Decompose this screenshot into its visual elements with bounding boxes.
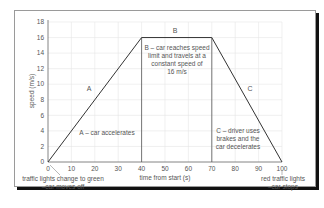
x-tick-label: 10 xyxy=(68,165,76,172)
y-tick-label: 4 xyxy=(40,127,44,134)
y-tick-label: 12 xyxy=(37,65,45,72)
start-pointer xyxy=(50,165,60,175)
segment-b-description-4: 16 m/s xyxy=(167,68,187,75)
x-tick-label: 30 xyxy=(115,165,123,172)
x-tick-label: 90 xyxy=(255,165,263,172)
x-tick-label: 40 xyxy=(138,165,146,172)
x-tick-label: 60 xyxy=(185,165,193,172)
segment-label-b: B xyxy=(173,27,178,34)
x-axis-label: time from start (s) xyxy=(140,174,191,182)
segment-label-c: C xyxy=(247,85,252,92)
y-tick-label: 10 xyxy=(37,80,45,87)
x-tick-label: 20 xyxy=(91,165,99,172)
y-tick-label: 14 xyxy=(37,49,45,56)
end-annotation-2: –car stops xyxy=(268,183,299,191)
segment-c-description-3: car decelerates xyxy=(216,143,261,150)
x-tick-label: 50 xyxy=(161,165,169,172)
start-annotation-1: traffic lights change to green xyxy=(22,175,104,183)
start-annotation-2: –car moves off xyxy=(42,183,85,190)
y-axis-label: speed (m/s) xyxy=(28,74,36,108)
segment-c-description-2: brakes and the xyxy=(216,135,259,142)
end-annotation-1: red traffic lights xyxy=(261,175,306,183)
segment-label-a: A xyxy=(87,85,92,92)
y-tick-label: 0 xyxy=(40,158,44,165)
x-tick-label: 80 xyxy=(232,165,240,172)
segment-b-description-1: B – car reaches speed xyxy=(144,44,209,52)
y-tick-labels: 024681012141618 xyxy=(37,18,45,165)
y-tick-label: 18 xyxy=(37,18,45,25)
segment-a-description: A – car accelerates xyxy=(79,129,135,136)
x-tick-labels: 0102030405060708090100 xyxy=(46,165,288,172)
y-tick-label: 16 xyxy=(37,34,45,41)
y-tick-label: 8 xyxy=(40,96,44,103)
speed-time-graph: 024681012141618 0102030405060708090100 s… xyxy=(0,0,324,208)
segment-c-description-1: C – driver uses xyxy=(216,127,260,134)
y-tick-label: 2 xyxy=(40,143,44,150)
x-tick-label: 0 xyxy=(46,165,50,172)
segment-b-description-3: constant speed of xyxy=(151,60,203,68)
y-tick-label: 6 xyxy=(40,112,44,119)
segment-b-description-2: limit and travels at a xyxy=(148,52,206,59)
x-tick-label: 70 xyxy=(208,165,216,172)
